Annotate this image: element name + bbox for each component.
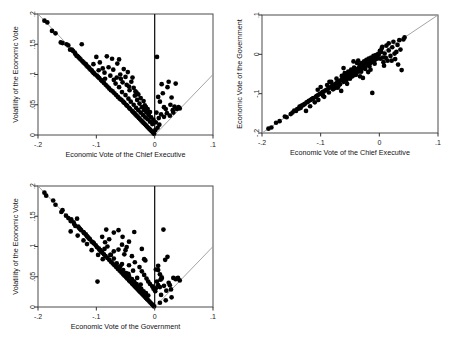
data-point: [111, 67, 116, 72]
data-point: [157, 122, 162, 127]
data-point: [116, 228, 121, 233]
data-point: [399, 68, 404, 73]
data-point: [120, 242, 125, 247]
data-point: [345, 81, 350, 86]
data-point: [398, 47, 403, 52]
data-point: [144, 105, 149, 110]
data-point: [139, 247, 144, 252]
y-tick-label: 0: [29, 133, 36, 137]
data-point: [391, 39, 396, 44]
x-tick-label: .1: [435, 139, 441, 146]
data-point: [153, 286, 158, 291]
data-point: [390, 45, 395, 50]
data-point: [163, 107, 168, 112]
data-point: [100, 257, 105, 262]
data-point: [159, 293, 164, 298]
data-point: [103, 240, 108, 245]
data-point: [397, 38, 402, 43]
data-point: [130, 75, 135, 80]
data-point: [152, 304, 157, 309]
data-point: [277, 119, 282, 124]
data-point: [356, 58, 361, 63]
data-point: [335, 85, 340, 90]
data-points: [266, 35, 407, 131]
data-point: [342, 71, 347, 76]
data-point: [138, 282, 143, 287]
data-point: [164, 288, 169, 293]
data-point: [304, 109, 309, 114]
data-point: [316, 98, 321, 103]
data-point: [111, 256, 116, 261]
data-point: [108, 73, 113, 78]
data-point: [155, 55, 160, 60]
data-points: [42, 190, 182, 308]
data-point: [388, 54, 393, 59]
data-point: [117, 57, 122, 62]
data-point: [125, 70, 130, 75]
x-tick-label: 0: [153, 141, 157, 148]
data-point: [177, 106, 182, 111]
data-point: [166, 79, 171, 84]
data-point: [165, 85, 170, 90]
data-point: [120, 262, 125, 267]
data-point: [168, 102, 173, 107]
data-point: [105, 244, 110, 249]
data-point: [383, 56, 388, 61]
y-axis-title: Volatility of the Economic Vote: [11, 26, 20, 122]
data-point: [169, 287, 174, 292]
y-tick-label: -.1: [253, 89, 260, 97]
data-point: [110, 56, 115, 61]
y-tick-label: 0: [253, 52, 260, 56]
data-point: [159, 276, 164, 281]
data-point: [372, 61, 377, 66]
data-point: [60, 41, 65, 46]
data-point: [102, 70, 107, 75]
data-point: [116, 247, 121, 252]
data-point: [341, 66, 346, 71]
data-point: [382, 63, 387, 68]
data-point: [171, 110, 176, 115]
data-point: [395, 43, 400, 48]
x-tick-label: .1: [210, 313, 216, 320]
data-point: [159, 82, 164, 87]
data-point: [53, 202, 58, 207]
y-tick-label: .15: [29, 39, 36, 49]
data-point: [378, 48, 383, 53]
data-point: [122, 252, 127, 257]
data-point: [59, 210, 64, 215]
panel-top-right: -.2-.10.1-.2-.10.1Economic Vote of the C…: [235, 12, 441, 157]
data-point: [386, 48, 391, 53]
data-point: [142, 257, 147, 262]
data-point: [96, 253, 101, 258]
data-point: [115, 61, 120, 66]
data-point: [129, 79, 134, 84]
data-point: [339, 89, 344, 94]
data-point: [169, 295, 174, 300]
scatter-plot-figure: -.2-.10.10.05.1.15.2Economic Vote of the…: [0, 0, 451, 342]
data-point: [156, 268, 161, 273]
data-point: [126, 271, 131, 276]
data-point: [402, 35, 407, 40]
data-point: [75, 216, 80, 221]
data-point: [68, 229, 73, 234]
data-point: [120, 80, 125, 85]
data-point: [177, 278, 182, 283]
data-point: [121, 67, 126, 72]
data-point: [66, 43, 71, 48]
y-tick-label: .1: [29, 243, 36, 249]
data-point: [135, 276, 140, 281]
data-point: [98, 248, 103, 253]
data-point: [97, 60, 102, 65]
data-point: [127, 263, 132, 268]
data-point: [389, 58, 394, 63]
data-point: [173, 81, 178, 86]
plot-frame: [38, 14, 213, 135]
x-tick-label: -.1: [92, 313, 100, 320]
y-axis-title: Economic Vote of the Government: [235, 19, 244, 128]
x-axis-title: Economic Vote of the Chief Executive: [290, 148, 410, 157]
y-tick-label: .2: [29, 11, 36, 17]
data-point: [109, 253, 114, 258]
data-point: [131, 268, 136, 273]
data-point: [91, 241, 96, 246]
data-point: [89, 248, 94, 253]
